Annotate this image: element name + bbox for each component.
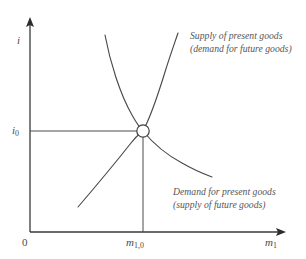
x-axis-tick-label-m10: m1,0	[126, 235, 144, 252]
x-tick-subscript: 1,0	[134, 241, 144, 250]
demand-annotation-line-2: (supply of future goods)	[173, 199, 276, 212]
demand-annotation-line-1: Demand for present goods	[173, 186, 276, 199]
supply-curve	[78, 33, 178, 207]
supply-annotation-line-1: Supply of present goods	[190, 30, 292, 43]
supply-demand-figure: i i0 0 m1,0 m1 Supply of present goods (…	[0, 0, 306, 259]
y-tick-subscript: 0	[15, 129, 19, 138]
supply-curve-annotation: Supply of present goods (demand for futu…	[190, 30, 292, 56]
origin-label: 0	[22, 235, 28, 250]
x-tick-base: m	[126, 236, 134, 248]
x-axis-base: m	[265, 236, 273, 248]
equilibrium-point-marker	[137, 125, 149, 137]
y-axis-tick-label-i0: i0	[12, 123, 19, 140]
y-axis-label: i	[17, 33, 20, 48]
x-axis-subscript: 1	[273, 241, 277, 250]
supply-annotation-line-2: (demand for future goods)	[190, 43, 292, 56]
x-axis-label: m1	[265, 235, 277, 252]
demand-curve-annotation: Demand for present goods (supply of futu…	[173, 186, 276, 212]
